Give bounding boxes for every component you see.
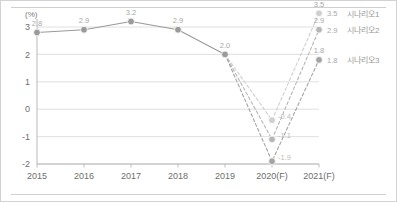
line-chart: 3210-1-2(%)201520162017201820192020(F)20… [1, 1, 397, 202]
x-axis-tick-label: 2021(F) [303, 171, 335, 181]
y-axis-unit-label: (%) [25, 10, 38, 19]
data-point-marker [222, 51, 229, 58]
data-point-marker [128, 18, 135, 25]
data-point-marker [81, 26, 88, 33]
legend-label-1: 시나리오1 [347, 10, 380, 19]
data-point-label: 1.8 [314, 46, 324, 55]
data-point-label: -0.4 [278, 112, 291, 121]
x-axis-tick-label: 2019 [215, 171, 235, 181]
y-axis-tick-label: 3 [25, 22, 30, 32]
y-axis-tick-label: 0 [25, 104, 30, 114]
x-axis-tick-label: 2016 [74, 171, 94, 181]
data-point-label: 2.8 [32, 19, 42, 28]
data-point-marker [175, 26, 182, 33]
chart-figure: 3210-1-2(%)201520162017201820192020(F)20… [0, 0, 397, 202]
series-line-1 [37, 22, 225, 55]
data-point-marker [269, 117, 276, 124]
data-point-label: -1.9 [278, 153, 291, 162]
x-axis-tick-label: 2018 [168, 171, 188, 181]
plot-area: 3210-1-2(%)201520162017201820192020(F)20… [1, 1, 397, 202]
data-point-label: -1.1 [278, 131, 291, 140]
data-point-marker [316, 26, 323, 33]
legend-value-2: 2.9 [327, 26, 337, 35]
series-line-2 [225, 13, 319, 120]
legend-value-3: 1.8 [327, 56, 337, 65]
y-axis-tick-label: 1 [25, 77, 30, 87]
data-point-marker [269, 158, 276, 165]
legend-label-2: 시나리오2 [347, 26, 380, 35]
data-point-label: 2.9 [314, 16, 324, 25]
data-point-marker [34, 29, 41, 36]
legend-value-1: 3.5 [327, 9, 337, 18]
data-point-marker [316, 56, 323, 63]
series-line-4 [225, 54, 319, 161]
legend-label-3: 시나리오3 [347, 56, 380, 65]
y-axis-tick-label: 2 [25, 50, 30, 60]
y-axis-tick-label: -2 [22, 159, 30, 169]
data-point-label: 2.9 [173, 16, 183, 25]
data-point-label: 3.2 [126, 8, 136, 17]
data-point-marker [269, 136, 276, 143]
x-axis-tick-label: 2015 [27, 171, 47, 181]
y-axis-tick-label: -1 [22, 132, 30, 142]
data-point-label: 3.5 [314, 1, 324, 9]
data-point-label: 2.0 [220, 41, 230, 50]
x-axis-tick-label: 2017 [121, 171, 141, 181]
data-point-label: 2.9 [79, 16, 89, 25]
x-axis-tick-label: 2020(F) [256, 171, 288, 181]
